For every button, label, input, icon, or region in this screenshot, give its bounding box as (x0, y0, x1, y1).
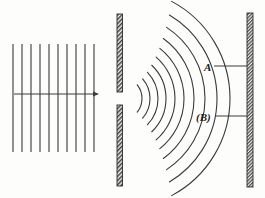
circular-wavefront-9 (169, 15, 217, 182)
barrier-upper (117, 14, 123, 92)
circular-wavefront-4 (152, 65, 166, 132)
plane-wavefront-group (13, 44, 94, 152)
label-leader-lines (214, 66, 247, 116)
circular-wavefront-1 (137, 85, 142, 112)
screen-bar (247, 13, 253, 187)
label-a: A (204, 62, 211, 73)
wave-diffraction-figure: A (B) (0, 0, 265, 198)
arrow-head (93, 92, 99, 97)
detection-screen (247, 13, 253, 187)
propagation-arrow (14, 92, 99, 97)
circular-wavefront-10 (172, 1, 230, 195)
label-b: (B) (196, 112, 211, 123)
barrier-lower (117, 105, 123, 186)
circular-wavefront-6 (160, 48, 184, 148)
diagram-canvas (0, 0, 265, 198)
circular-wavefront-2 (143, 79, 150, 118)
circular-wavefront-8 (167, 27, 205, 169)
slit-barrier (117, 14, 123, 186)
circular-wavefront-group (137, 1, 230, 195)
circular-wavefront-3 (147, 72, 158, 124)
